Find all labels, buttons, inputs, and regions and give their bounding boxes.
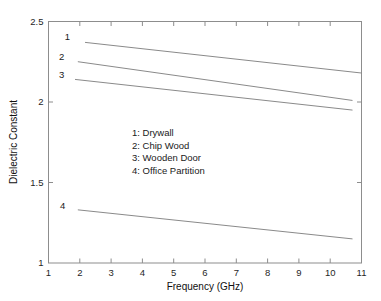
curve-tag-2: 2 <box>59 51 64 62</box>
curve-tag-3: 3 <box>59 69 64 80</box>
line-chart: 1234567891011 11.522.5 1234 1: Drywall2:… <box>0 0 381 301</box>
x-tick-label: 10 <box>325 267 336 278</box>
x-tick-label: 4 <box>140 267 145 278</box>
x-tick-label: 9 <box>296 267 301 278</box>
y-tick-label: 2.5 <box>30 16 43 27</box>
x-tick-label: 5 <box>171 267 176 278</box>
x-tick-label: 8 <box>265 267 270 278</box>
curve-tag-1: 1 <box>65 31 70 42</box>
x-tick-label: 6 <box>202 267 207 278</box>
x-tick-label: 3 <box>108 267 113 278</box>
x-tick-label: 7 <box>234 267 239 278</box>
legend-entry: 2: Chip Wood <box>132 140 189 151</box>
legend-entry: 3: Wooden Door <box>132 152 201 163</box>
curve-tag-4: 4 <box>60 200 65 211</box>
y-tick-label: 1.5 <box>30 177 43 188</box>
x-tick-label: 2 <box>77 267 82 278</box>
x-tick-label: 1 <box>46 267 51 278</box>
x-axis-title: Frequency (GHz) <box>167 281 244 292</box>
y-axis-title: Dielectric Constant <box>8 100 19 184</box>
legend-entry: 1: Drywall <box>132 127 174 138</box>
y-tick-label: 2 <box>38 96 43 107</box>
chart-figure: 1234567891011 11.522.5 1234 1: Drywall2:… <box>0 0 381 301</box>
chart-background <box>0 0 381 301</box>
x-tick-label: 11 <box>357 267 367 278</box>
legend-entry: 4: Office Partition <box>132 165 205 176</box>
y-tick-label: 1 <box>38 257 43 268</box>
